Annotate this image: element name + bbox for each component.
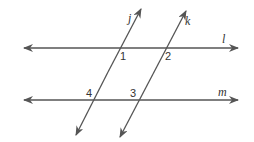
diagram-canvas: l m j k 1 2 3 4 xyxy=(0,0,254,142)
line-k-up-arrow xyxy=(153,11,186,74)
line-j-up-arrow xyxy=(108,9,141,72)
line-l-label: l xyxy=(222,32,226,46)
line-m-label: m xyxy=(218,85,227,99)
parallel-lines-diagram: l m j k 1 2 3 4 xyxy=(0,0,254,142)
angle-2-label: 2 xyxy=(165,50,171,62)
line-l: l xyxy=(24,32,238,48)
angle-4-label: 4 xyxy=(86,87,92,99)
angle-3-label: 3 xyxy=(130,87,136,99)
line-k-label: k xyxy=(185,14,191,28)
line-j-down-arrow xyxy=(76,72,108,135)
angle-1-label: 1 xyxy=(120,50,126,62)
line-k-down-arrow xyxy=(120,74,153,137)
line-j-label: j xyxy=(126,11,132,25)
